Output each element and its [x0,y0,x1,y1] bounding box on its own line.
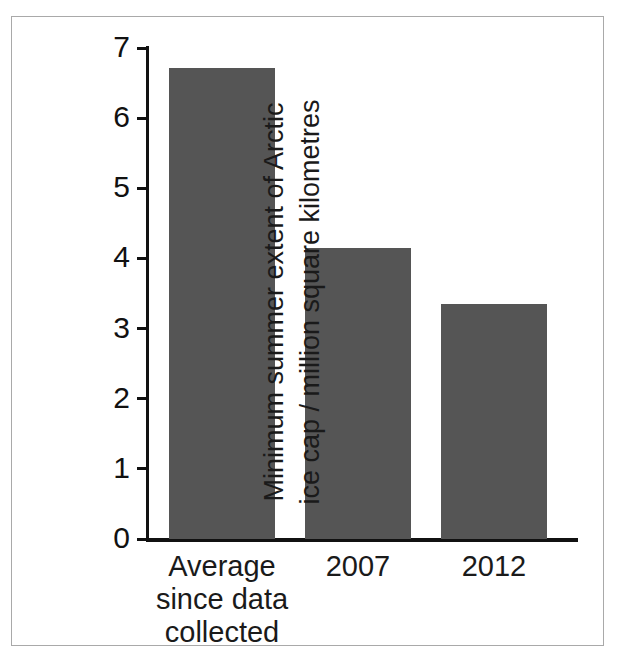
y-axis-tick [137,47,147,50]
x-axis-label-3: 2012 [417,550,571,583]
x-axis-label-1: Average since data collected [145,550,299,649]
x-axis-label-2: 2007 [281,550,435,583]
y-axis-tick [137,538,147,541]
plot-area: 01234567 Average since data collected200… [0,0,631,663]
chart-figure: 01234567 Average since data collected200… [0,0,631,663]
y-axis-title: Minimum summer extent of Arctic ice cap … [14,72,100,532]
y-axis-title-line-2: ice cap / million square kilometres [80,72,540,532]
y-axis-tick-label: 7 [96,32,130,62]
